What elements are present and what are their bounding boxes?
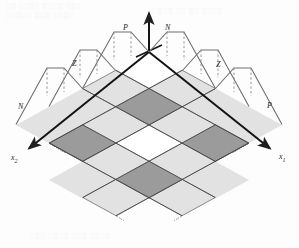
axis-label-x1: x1 <box>279 152 286 163</box>
scan-ghost-text: ░░▒░░ ▒░▒ ░░▒░ <box>6 12 74 18</box>
mf-label-x2-Z: Z <box>72 59 76 68</box>
mf-label-x2-P: P <box>123 23 128 32</box>
figure-canvas: N Z P N Z P x2 x1 ░▒ ░░▒░ ▒░░▒ ░▒░ ░░▒░░… <box>0 0 299 248</box>
scan-ghost-text: ░ ▒░▒ ░░ ▒░ ▒░░▒ <box>150 8 223 14</box>
mf-label-x1-Z: Z <box>216 60 220 69</box>
scan-ghost-text: ░▒ ░░▒░ ▒░░▒ ░▒░ <box>6 3 82 9</box>
mf-label-x2-N: N <box>18 102 23 111</box>
fuzzy-partition-diagram <box>0 0 299 248</box>
axis-label-x2: x2 <box>11 153 18 164</box>
axis-label-x1-sub: 1 <box>283 157 286 163</box>
scan-ghost-text: ░▒░ ░▒░▒ ░░▒ ░▒░▒ <box>30 233 111 239</box>
axis-label-x2-sub: 2 <box>15 158 18 164</box>
mf-label-x1-P: P <box>267 101 272 110</box>
mf-label-x1-N: N <box>165 23 170 32</box>
